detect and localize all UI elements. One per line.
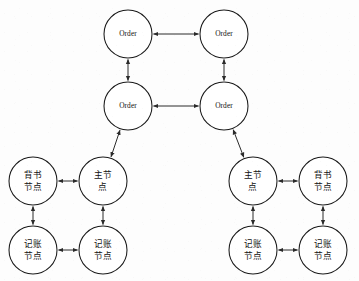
node-order-top-right: Order [200,10,248,58]
node-layer: OrderOrderOrderOrder背书节点主节点记账节点记账节点主节点背书… [9,10,347,274]
node-label-order-top-left: Order [119,29,137,38]
node-label-line: Order [215,29,233,38]
node-label-left-ledger-b: 记账节点 [94,239,113,260]
node-left-ledger-b: 记账节点 [79,226,127,274]
node-label-line: 背书 [24,169,43,180]
node-label-right-ledger-a: 记账节点 [244,239,263,260]
node-label-line: 主节 [94,169,113,180]
node-label-line: Order [119,101,137,110]
node-label-line: 节点 [24,181,43,191]
node-label-line: 记账 [24,239,43,249]
node-order-top-left: Order [104,10,152,58]
node-label-line: 点 [98,181,107,191]
node-label-left-ledger-a: 记账节点 [24,239,43,260]
node-right-endorse: 背书节点 [299,157,347,205]
node-label-line: 节点 [314,250,333,260]
node-label-right-ledger-b: 记账节点 [314,239,333,260]
node-label-line: 主节 [244,169,263,180]
node-label-line: 背书 [314,169,333,180]
node-label-line: 记账 [314,239,333,249]
node-label-line: 节点 [314,181,333,191]
node-label-order-top-right: Order [215,29,233,38]
node-label-line: 节点 [94,250,113,260]
node-left-master: 主节点 [79,157,127,205]
edge-e-left-uplink [111,130,120,157]
node-label-line: 点 [248,181,257,191]
node-right-ledger-b: 记账节点 [299,226,347,274]
edge-e-right-uplink [233,130,244,157]
node-label-line: 记账 [94,239,113,249]
node-label-order-mid-right: Order [215,101,233,110]
node-label-line: Order [215,101,233,110]
node-order-mid-right: Order [200,82,248,130]
node-label-line: 节点 [24,250,43,260]
network-topology-diagram: OrderOrderOrderOrder背书节点主节点记账节点记账节点主节点背书… [0,0,359,281]
node-label-order-mid-left: Order [119,101,137,110]
edge-layer [33,34,323,250]
node-label-line: 节点 [244,250,263,260]
node-right-ledger-a: 记账节点 [229,226,277,274]
node-left-ledger-a: 记账节点 [9,226,57,274]
node-label-line: 记账 [244,239,263,249]
diagram-canvas: OrderOrderOrderOrder背书节点主节点记账节点记账节点主节点背书… [0,0,359,281]
node-left-endorse: 背书节点 [9,157,57,205]
node-right-master: 主节点 [229,157,277,205]
node-label-line: Order [119,29,137,38]
node-order-mid-left: Order [104,82,152,130]
